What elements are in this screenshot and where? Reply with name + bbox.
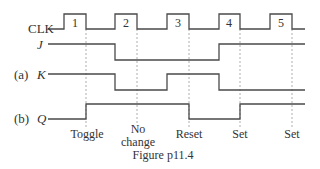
signal-prefix-a: (a) [14,68,28,81]
q-waveform [48,104,305,119]
clock-pulse-3: 3 [175,17,181,29]
signal-prefix-b: (b) [14,112,29,125]
annotation-set-1: Set [232,128,247,141]
signal-label-j: J [37,38,43,51]
j-waveform [48,44,305,60]
k-waveform [48,74,305,90]
annotation-line1: Toggle [70,128,103,141]
clock-pulse-2: 2 [123,17,129,29]
annotation-line1: Set [284,128,299,141]
annotation-line1: No [121,123,155,136]
annotation-line2: change [121,136,155,149]
clock-pulse-5: 5 [278,17,284,29]
annotation-toggle: Toggle [70,128,103,141]
clock-pulse-4: 4 [226,17,232,29]
clock-pulse-1: 1 [72,17,78,29]
signal-label-k: K [37,68,46,81]
annotation-line1: Set [232,128,247,141]
figure-caption: Figure p11.4 [133,148,194,163]
annotation-reset: Reset [176,128,203,141]
signal-label-q: Q [37,112,46,125]
annotation-line1: Reset [176,128,203,141]
annotation-set-2: Set [284,128,299,141]
signal-label-clk: CLK [28,22,54,35]
annotation-no-change: No change [121,123,155,148]
